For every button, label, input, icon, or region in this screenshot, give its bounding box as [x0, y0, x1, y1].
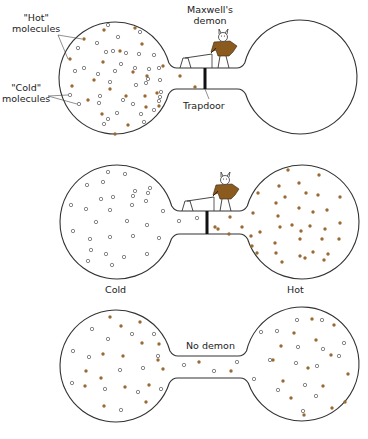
cold-molecule [76, 46, 79, 49]
hot-molecule [297, 181, 300, 184]
cold-molecule [71, 229, 74, 232]
hot-molecule [84, 369, 87, 372]
cold-molecule [159, 90, 162, 93]
cold-molecule [259, 330, 262, 333]
panel-equilibrium [60, 307, 359, 422]
hot-molecule [316, 193, 319, 196]
hot-molecule [304, 191, 307, 194]
cold-molecule [177, 219, 180, 222]
hot-molecule [161, 64, 164, 67]
cold-molecule [321, 347, 324, 350]
demon-head [221, 176, 230, 185]
cold-molecule [123, 172, 126, 175]
cold-molecule [301, 409, 304, 412]
cold-molecule [315, 364, 318, 367]
cold-molecule [131, 102, 134, 105]
cold-molecule [90, 327, 93, 330]
hot-molecule [311, 250, 314, 253]
cold-molecules-label-line1: "Cold" [2, 82, 50, 93]
hot-molecule [281, 379, 284, 382]
hot-molecule [99, 376, 102, 379]
hot-molecule [274, 201, 277, 204]
cold-molecule [148, 186, 151, 189]
hot-molecule [290, 223, 293, 226]
hot-molecule [131, 70, 134, 73]
cold-molecule [296, 345, 299, 348]
cold-molecule [116, 35, 119, 38]
cold-molecule [99, 197, 102, 200]
hot-molecule [240, 225, 243, 228]
hot-molecule [320, 237, 323, 240]
cold-molecule [104, 252, 107, 255]
cold-molecule [73, 69, 76, 72]
trapdoor [204, 68, 207, 89]
hot-molecule [197, 360, 200, 363]
vessel-outline [59, 20, 357, 134]
cold-molecule [88, 237, 91, 240]
cold-molecule [87, 355, 90, 358]
hot-molecule [228, 215, 231, 218]
hot-molecule [144, 105, 147, 108]
hot-molecule [311, 210, 314, 213]
demon-label-line1: Maxwell's [185, 4, 235, 15]
hot-molecule [100, 112, 103, 115]
hot-molecule [155, 91, 158, 94]
cold-molecule [152, 53, 155, 56]
hot-molecule [118, 49, 121, 52]
hot-molecule [101, 352, 104, 355]
cold-molecule [158, 78, 161, 81]
hot-molecule [102, 404, 105, 407]
hot-molecule [278, 225, 281, 228]
cold-molecule [235, 360, 238, 363]
cold-molecule [86, 259, 89, 262]
hot-molecule [277, 184, 280, 187]
cold-molecule [103, 387, 106, 390]
hot-molecule [157, 104, 160, 107]
hot-molecule [83, 384, 86, 387]
cold-molecule [139, 112, 142, 115]
hot-molecule [216, 227, 219, 230]
cold-molecule [110, 263, 113, 266]
hot-molecule [126, 123, 129, 126]
cold-molecule [133, 189, 136, 192]
cold-molecule [111, 195, 114, 198]
cold-molecule [146, 191, 149, 194]
cold-molecule [104, 50, 107, 53]
cold-molecule [275, 329, 278, 332]
cold-molecule [98, 94, 101, 97]
hot-molecule [274, 251, 277, 254]
hot-molecule [286, 168, 289, 171]
cold-molecule [89, 248, 92, 251]
hot-molecule [310, 317, 313, 320]
hot-molecules-label-line2: molecules [12, 23, 60, 34]
cold-molecule [268, 358, 271, 361]
cold-molecule [320, 318, 323, 321]
cold-molecule [84, 207, 87, 210]
cold-molecule [294, 361, 297, 364]
hot-molecule [323, 227, 326, 230]
cold-molecules-label-line2: molecules [2, 93, 50, 104]
hot-molecule [321, 384, 324, 387]
cold-molecule [136, 390, 139, 393]
hot-molecule [161, 367, 164, 370]
hot-molecule [144, 400, 147, 403]
cold-molecule [152, 108, 155, 111]
cold-molecule [108, 235, 111, 238]
cold-molecule [195, 216, 198, 219]
cold-molecule [85, 183, 88, 186]
cold-molecule [158, 95, 161, 98]
cold-molecule [295, 318, 298, 321]
cold-molecule [102, 122, 105, 125]
cold-molecule [106, 117, 109, 120]
hot-molecule [92, 78, 95, 81]
cold-molecule [137, 52, 140, 55]
panel-initial [59, 20, 357, 136]
cold-molecule [337, 354, 340, 357]
hot-molecule [119, 324, 122, 327]
hot-molecule [178, 74, 181, 77]
cold-chamber-label: Cold [105, 284, 126, 295]
hot-molecule [123, 385, 126, 388]
hot-molecules-label: "Hot" molecules [12, 12, 60, 34]
hot-molecule [108, 315, 111, 318]
cold-molecule [122, 255, 125, 258]
